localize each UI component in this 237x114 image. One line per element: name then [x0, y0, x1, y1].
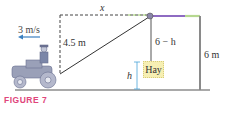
label-speed: 3 m/s — [18, 25, 40, 35]
label-4-5m: 4.5 m — [63, 38, 86, 48]
pulley-icon — [147, 13, 153, 19]
label-6m: 6 m — [204, 50, 219, 60]
label-x: x — [100, 3, 104, 13]
arrow-head-icon — [18, 35, 23, 40]
label-h: h — [127, 71, 132, 81]
tractor-icon — [12, 45, 56, 88]
hay-bale: Hay — [143, 61, 164, 78]
figure-caption: FIGURE 7 — [4, 95, 47, 105]
label-6-minus-h: 6 − h — [155, 37, 176, 47]
